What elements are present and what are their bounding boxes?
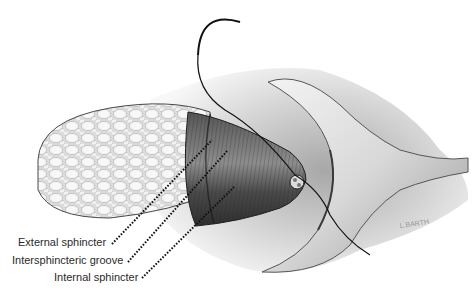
needle	[198, 19, 240, 55]
label-external-sphincter: External sphincter	[18, 236, 106, 248]
illustration: L.BARTH External sphincter Intersphincte…	[0, 0, 473, 302]
label-intersphincteric-groove: Intersphincteric groove	[12, 254, 123, 266]
label-internal-sphincter: Internal sphincter	[54, 271, 138, 283]
suture-rosette	[290, 175, 304, 189]
